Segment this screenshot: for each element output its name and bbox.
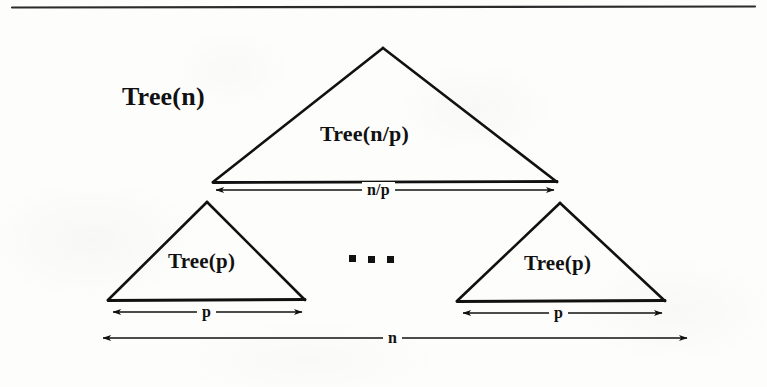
label-tree-p-right: Tree(p) xyxy=(524,253,591,274)
label-measure-n: n xyxy=(383,330,402,346)
label-measure-p-right: p xyxy=(549,305,568,321)
ellipsis-icon xyxy=(349,255,394,263)
label-measure-p-left: p xyxy=(197,304,216,320)
figure-canvas: Tree(n) Tree(n/p) Tree(p) Tree(p) n/p p … xyxy=(0,0,767,387)
top-horizontal-rule xyxy=(12,7,755,8)
label-tree-n-over-p: Tree(n/p) xyxy=(320,123,409,145)
label-tree-p-left: Tree(p) xyxy=(168,251,235,272)
label-measure-n-over-p: n/p xyxy=(362,182,395,198)
root-triangle xyxy=(213,48,557,183)
label-tree-n: Tree(n) xyxy=(122,84,205,110)
